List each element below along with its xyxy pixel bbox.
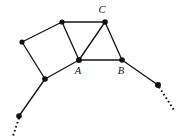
- vertex-label-A: A: [74, 65, 82, 76]
- graph-edge-v_left-v_top: [22, 22, 62, 42]
- graph-node-v_tail_left: [16, 113, 22, 119]
- vertex-label-C: C: [98, 4, 106, 15]
- graph-node-v_bottomleft: [42, 76, 48, 82]
- graph-edge-C-A: [79, 22, 105, 60]
- vertex-label-B: B: [118, 65, 125, 76]
- graph-node-v_left: [19, 39, 24, 44]
- graph-edge-v_bottomleft-v_tail_left: [19, 79, 45, 116]
- edges-layer: [19, 22, 158, 116]
- graph-edge-v_bottomleft-v_left: [22, 42, 45, 79]
- graph-node-v_top: [59, 19, 64, 24]
- dotted-continuation-tail_left_dots: [13, 118, 19, 136]
- graph-diagram: CAB: [0, 0, 182, 138]
- graph-edge-B-v_tail_right: [122, 60, 158, 85]
- graph-node-v_tail_right: [155, 82, 161, 88]
- dotted-continuation-tail_right_dots: [159, 87, 174, 110]
- graph-edge-v_top-A: [62, 22, 79, 60]
- figure-root: CAB: [0, 0, 182, 138]
- vertex-labels-layer: CAB: [74, 4, 125, 76]
- graph-edge-C-B: [105, 22, 122, 60]
- graph-node-C: [102, 19, 108, 25]
- dotted-continuations-layer: [13, 87, 174, 136]
- graph-node-A: [76, 57, 82, 63]
- graph-node-B: [119, 57, 125, 63]
